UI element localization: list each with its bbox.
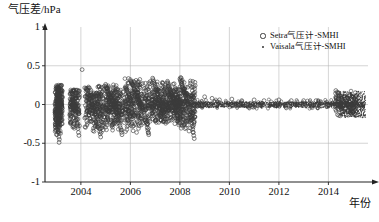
dot-icon: [258, 41, 268, 52]
legend-label-vaisala: Vaisala气压计-SMHI: [270, 41, 346, 52]
x-tick-label-2008: 2008: [158, 186, 202, 198]
y-tick-label: 0: [6, 99, 40, 110]
y-tick-label: 0.5: [6, 60, 40, 71]
y-tick-4: -1: [0, 176, 40, 187]
x-tick-label-2012: 2012: [257, 186, 301, 198]
x-tick-label-2014: 2014: [306, 186, 350, 198]
x-tick-label-2010: 2010: [207, 186, 251, 198]
y-tick-label: 1: [6, 21, 40, 32]
legend-item-setra: Setra气压计-SMHI: [258, 30, 346, 41]
x-tick-label-2006: 2006: [108, 186, 152, 198]
chart-container: 气压差/hPa 年份 10.50-0.5-1 20042006200820102…: [0, 0, 379, 222]
y-tick-label: -1: [6, 176, 40, 187]
y-tick-label: -0.5: [6, 137, 40, 148]
open-circle-icon: [258, 30, 268, 41]
legend-item-vaisala: Vaisala气压计-SMHI: [258, 41, 346, 52]
y-tick-1: 0.5: [0, 60, 40, 71]
y-tick-2: 0: [0, 99, 40, 110]
y-tick-3: -0.5: [0, 137, 40, 148]
y-tick-0: 1: [0, 21, 40, 32]
x-tick-label-2004: 2004: [59, 186, 103, 198]
y-axis-title: 气压差/hPa: [8, 3, 61, 16]
legend-label-setra: Setra气压计-SMHI: [270, 30, 339, 41]
chart-legend: Setra气压计-SMHI Vaisala气压计-SMHI: [258, 30, 346, 52]
x-axis-title: 年份: [349, 197, 371, 210]
